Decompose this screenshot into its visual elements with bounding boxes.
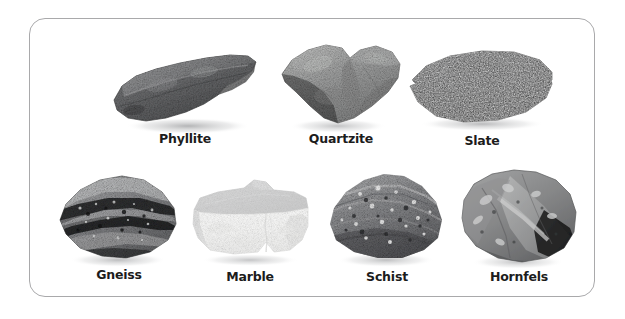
- specimen-hornfels: Hornfels: [452, 147, 586, 285]
- specimen-figure: Marble: [182, 157, 318, 285]
- specimen-label-gneiss: Gneiss: [96, 267, 142, 282]
- specimen-figure: Phyllite: [100, 27, 270, 149]
- gneiss-rock-image: [50, 153, 188, 285]
- specimen-card-frame: Phyllite: [29, 18, 595, 297]
- specimen-figure: Hornfels: [452, 147, 586, 285]
- specimen-figure: Quartzite: [268, 23, 414, 149]
- specimen-label-quartzite: Quartzite: [309, 131, 373, 146]
- specimen-label-slate: Slate: [464, 133, 499, 148]
- specimen-figure: Slate: [402, 29, 562, 149]
- specimen-label-schist: Schist: [366, 269, 408, 284]
- specimen-quartzite: Quartzite: [268, 23, 414, 149]
- hornfels-rock-image: [452, 147, 586, 285]
- specimen-marble: Marble: [182, 157, 318, 285]
- specimen-gneiss: Gneiss: [50, 153, 188, 285]
- figure-root: Phyllite: [0, 0, 625, 319]
- specimen-figure: Schist: [320, 147, 454, 285]
- specimen-label-hornfels: Hornfels: [490, 269, 548, 284]
- specimen-phyllite: Phyllite: [100, 27, 270, 149]
- specimen-grid: Phyllite: [30, 19, 596, 298]
- slate-rock-image: [402, 29, 562, 149]
- specimen-label-marble: Marble: [226, 269, 274, 284]
- specimen-slate: Slate: [402, 29, 562, 149]
- specimen-figure: Gneiss: [50, 153, 188, 285]
- schist-rock-image: [320, 147, 454, 285]
- specimen-schist: Schist: [320, 147, 454, 285]
- specimen-label-phyllite: Phyllite: [159, 131, 211, 146]
- marble-rock-image: [182, 157, 318, 285]
